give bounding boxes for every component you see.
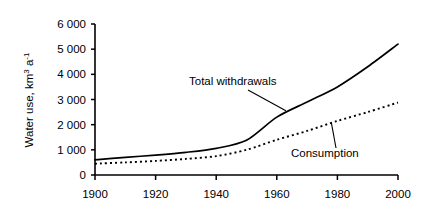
y-tick-label: 1 000 [57,144,86,156]
y-tick-label: 3 000 [57,94,86,106]
y-axis-title-base1: Water use, km [23,74,35,148]
annotation-consumption: Consumption [291,147,359,159]
water-use-line-chart: 01 0002 0003 0004 0005 0006 000 19001920… [0,0,434,221]
y-tick-label: 2 000 [57,119,86,131]
x-tick-label: 1920 [143,188,169,200]
y-tick-label: 0 [80,169,86,181]
y-axis-title: Water use, km3 a-1 [22,52,35,147]
x-tick-label: 1960 [264,188,290,200]
x-tick-label: 1900 [82,188,108,200]
y-tick-label: 4 000 [57,68,86,80]
y-tick-label: 6 000 [57,18,86,30]
x-tick-label: 1980 [325,188,351,200]
y-axis-title-superscript-minus1: -1 [22,52,31,60]
y-tick-label: 5 000 [57,43,86,55]
chart-figure: 01 0002 0003 0004 0005 0006 000 19001920… [0,0,434,221]
x-tick-label: 2000 [385,188,411,200]
annotation-total-withdrawals: Total withdrawals [189,75,277,87]
x-tick-label: 1940 [203,188,229,200]
